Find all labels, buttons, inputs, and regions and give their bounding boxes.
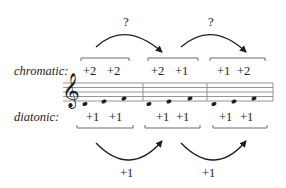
note [231, 99, 237, 104]
note [211, 101, 217, 106]
bottom-arrow-label-1: +1 [120, 167, 133, 180]
chromatic-brackets [81, 58, 265, 61]
upper-arrow-2 [181, 35, 246, 52]
diagram-graphics [0, 0, 286, 188]
lower-arrow-1 [96, 141, 162, 160]
upper-arrow-1 [96, 35, 162, 52]
diatonic-value: +1 [240, 111, 253, 124]
bottom-arrow-label-2: +1 [202, 167, 215, 180]
diatonic-value: +1 [86, 111, 99, 124]
diatonic-value: +1 [156, 111, 169, 124]
chromatic-value: +1 [175, 65, 188, 78]
question-mark-1: ? [123, 15, 129, 28]
lower-arrow-2 [181, 141, 246, 160]
diatonic-value: +1 [109, 111, 122, 124]
diatonic-brackets [77, 125, 267, 128]
note [82, 101, 88, 106]
treble-clef-icon: 𝄞 [62, 75, 80, 105]
chromatic-value: +1 [217, 65, 230, 78]
question-mark-2: ? [208, 15, 214, 28]
chromatic-value: +2 [83, 65, 96, 78]
diatonic-value: +1 [219, 111, 232, 124]
diatonic-value: +1 [176, 111, 189, 124]
note [146, 101, 152, 106]
chromatic-value: +2 [237, 65, 250, 78]
staff [63, 83, 273, 101]
interval-diagram: 𝄞 ? ? chromatic: +2 +2 +2 +1 +1 +2 diato… [0, 0, 286, 188]
note [101, 99, 107, 104]
diatonic-label: diatonic: [14, 111, 59, 124]
chromatic-label: chromatic: [14, 65, 68, 78]
note [166, 99, 172, 104]
chromatic-value: +2 [107, 65, 120, 78]
chromatic-value: +2 [151, 65, 164, 78]
